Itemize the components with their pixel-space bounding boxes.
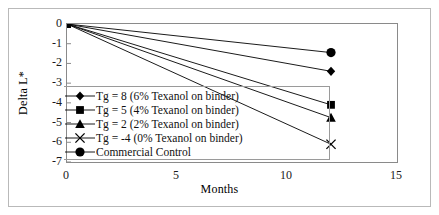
legend-marker-square-icon	[64, 103, 96, 117]
y-axis-title: Delta L*	[14, 23, 32, 163]
legend-marker-x-icon	[64, 131, 96, 145]
legend-marker-circle-icon	[64, 145, 96, 159]
y-tick-label: -2	[38, 56, 62, 68]
legend-label: Tg = -4 (0% Texanol on binder)	[96, 132, 243, 144]
y-tick-label: -3	[38, 76, 62, 88]
legend-marker-triangle-icon	[64, 117, 96, 131]
y-tick-label: -5	[38, 116, 62, 128]
y-tick-label: -1	[38, 37, 62, 49]
chart-legend: Tg = 8 (6% Texanol on binder)Tg = 5 (4% …	[64, 86, 330, 160]
y-tick-label: -7	[38, 155, 62, 167]
data-point	[326, 48, 335, 57]
legend-label: Commercial Control	[96, 146, 191, 158]
legend-item: Commercial Control	[64, 145, 329, 159]
series-0	[67, 24, 335, 76]
x-axis-title: Months	[0, 182, 439, 196]
y-tick-label: -6	[38, 135, 62, 147]
legend-marker-diamond-icon	[64, 89, 96, 103]
legend-label: Tg = 5 (4% Texanol on binder)	[96, 104, 239, 116]
y-tick-label: 0	[38, 17, 62, 29]
x-tick-label: 0	[46, 168, 86, 182]
legend-item: Tg = -4 (0% Texanol on binder)	[64, 131, 329, 145]
data-point	[327, 67, 335, 76]
legend-marker-glyph	[76, 106, 84, 114]
y-tick-label: -4	[38, 96, 62, 108]
legend-item: Tg = 8 (6% Texanol on binder)	[64, 89, 329, 103]
x-tick-label: 5	[156, 168, 196, 182]
legend-marker-glyph	[76, 91, 84, 100]
chart-figure: 0-1-2-3-4-5-6-7 Delta L* Tg = 8 (6% Texa…	[0, 0, 439, 215]
legend-label: Tg = 8 (6% Texanol on binder)	[96, 90, 239, 102]
legend-item: Tg = 5 (4% Texanol on binder)	[64, 103, 329, 117]
x-tick-label: 15	[376, 168, 416, 182]
y-axis-title-text: Delta L*	[16, 71, 30, 115]
x-tick-label: 10	[266, 168, 306, 182]
origin-marker-cluster	[67, 24, 71, 28]
legend-label: Tg = 2 (2% Texanol on binder)	[96, 118, 239, 130]
legend-item: Tg = 2 (2% Texanol on binder)	[64, 117, 329, 131]
legend-marker-glyph	[75, 147, 84, 156]
series-4	[67, 24, 336, 57]
